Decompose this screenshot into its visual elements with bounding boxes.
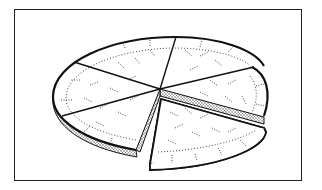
pizza-illustration bbox=[0, 0, 322, 190]
